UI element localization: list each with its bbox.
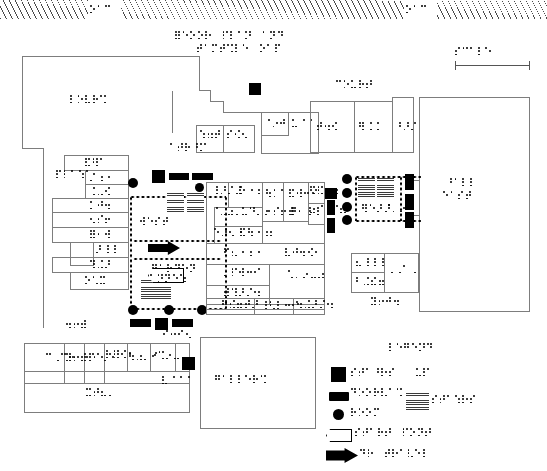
outline-seg: [22, 148, 44, 149]
braille-cell: [310, 186, 316, 196]
braille-cell: [371, 258, 377, 268]
braille-cell: [222, 228, 228, 238]
braille-cell: [100, 276, 106, 286]
marker-doorway-vertical: [405, 212, 414, 228]
braille-cell: [359, 368, 365, 378]
braille-cell: [93, 95, 99, 105]
scale-bar-label: [455, 47, 493, 57]
legend-symbol-solid-arrow: [326, 448, 358, 463]
braille-cell: [190, 31, 196, 41]
braille-cell: [221, 186, 227, 196]
braille-cell: [254, 268, 260, 278]
room-label: [163, 330, 193, 340]
marker-square: [325, 188, 337, 199]
braille-cell: [262, 301, 268, 311]
corridor-dotted-edge: [130, 196, 132, 309]
braille-cell: [85, 276, 91, 286]
marker-room-node: [342, 188, 352, 198]
braille-cell: [105, 5, 111, 15]
braille-cell: [356, 277, 362, 287]
braille-cell: [239, 268, 245, 278]
braille-cell: [296, 270, 302, 280]
braille-cell: [257, 207, 263, 217]
braille-cell: [421, 5, 427, 15]
braille-cell: [198, 31, 204, 41]
braille-cell: [46, 353, 52, 363]
room-label: [213, 207, 243, 217]
braille-cell: [170, 376, 176, 386]
marker-doorway: [192, 173, 213, 180]
legend-heading: [389, 343, 435, 353]
braille-cell: [291, 207, 297, 217]
braille-cell: [379, 297, 385, 307]
braille-cell: [144, 352, 150, 362]
room-label: [56, 170, 94, 180]
braille-cell: [466, 191, 472, 201]
braille-cell: [254, 288, 260, 298]
room-label: [213, 186, 243, 196]
room-label: [224, 288, 262, 298]
marker-doorway-vertical: [327, 200, 335, 215]
braille-cell: [90, 260, 96, 270]
braille-cell: [318, 270, 324, 280]
braille-cell: [359, 122, 365, 132]
braille-cell: [277, 301, 283, 311]
braille-cell: [235, 44, 241, 54]
legend-label-3: [351, 408, 381, 418]
braille-cell: [227, 44, 233, 54]
braille-cell: [129, 352, 135, 362]
braille-cell: [105, 187, 111, 197]
legend-label-stair: [432, 395, 478, 405]
braille-cell: [281, 189, 287, 199]
braille-cell: [305, 300, 311, 310]
marker-room-node: [164, 305, 174, 315]
braille-cell: [317, 122, 323, 132]
braille-cell: [94, 353, 100, 363]
marker-square: [249, 83, 261, 95]
braille-cell: [285, 248, 291, 258]
braille-cell: [379, 277, 385, 287]
braille-cell: [105, 173, 111, 183]
outline-seg: [414, 215, 420, 216]
braille-cell: [292, 119, 298, 129]
marker-doorway: [169, 173, 189, 180]
braille-cell: [137, 352, 143, 362]
braille-cell: [370, 428, 376, 438]
braille-cell: [300, 248, 306, 258]
braille-cell: [170, 143, 176, 153]
braille-cell: [163, 217, 169, 227]
braille-cell: [366, 388, 372, 398]
braille-cell: [275, 44, 281, 54]
room-label: [90, 260, 113, 270]
braille-cell: [232, 248, 238, 258]
marker-room-node: [342, 202, 352, 212]
braille-cell: [98, 230, 104, 240]
braille-cell: [81, 320, 87, 330]
braille-cell: [105, 215, 111, 225]
braille-cell: [415, 449, 421, 459]
braille-cell: [355, 428, 361, 438]
braille-cell: [140, 217, 146, 227]
room-label: [70, 95, 108, 105]
stair-symbol: [167, 193, 184, 214]
braille-cell: [106, 350, 112, 360]
braille-cell: [470, 47, 476, 57]
braille-cell: [105, 260, 111, 270]
braille-cell: [185, 376, 191, 386]
room-label: [222, 300, 260, 310]
braille-cell: [54, 353, 60, 363]
braille-cell: [325, 122, 331, 132]
braille-cell: [311, 270, 317, 280]
area-label: [215, 375, 268, 385]
braille-cell: [213, 207, 219, 217]
area-label: [443, 191, 473, 201]
braille-cell: [85, 158, 91, 168]
braille-cell: [178, 143, 184, 153]
braille-cell: [174, 351, 180, 361]
braille-cell: [396, 265, 402, 275]
braille-cell: [411, 122, 417, 132]
room-label: [371, 297, 401, 307]
braille-cell: [406, 368, 412, 378]
braille-cell: [238, 375, 244, 385]
braille-cell: [232, 268, 238, 278]
